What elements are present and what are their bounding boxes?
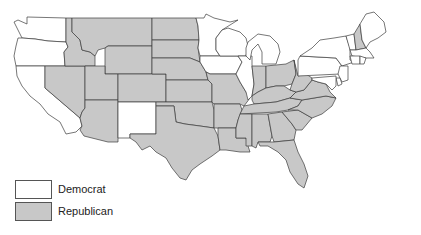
state-or — [14, 38, 68, 66]
democrat-swatch — [15, 180, 52, 199]
state-nm — [118, 102, 156, 138]
state-nd — [152, 18, 199, 40]
state-co — [118, 74, 166, 102]
state-az — [80, 100, 118, 142]
state-ct — [350, 56, 360, 64]
state-wi — [216, 28, 248, 56]
republican-swatch — [15, 202, 52, 221]
legend-item-republican: Republican — [15, 200, 113, 222]
democrat-label: Democrat — [58, 183, 106, 195]
state-shapes — [14, 12, 386, 188]
legend-item-democrat: Democrat — [15, 178, 113, 200]
state-pa — [298, 56, 342, 76]
state-fl — [258, 140, 308, 188]
legend: Democrat Republican — [15, 178, 113, 222]
state-ia — [200, 56, 242, 74]
state-me — [360, 12, 386, 48]
republican-label: Republican — [58, 205, 113, 217]
state-ks — [166, 80, 212, 102]
state-wy — [105, 46, 152, 74]
